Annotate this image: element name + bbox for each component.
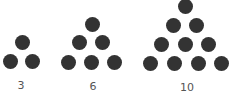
group-count-label: 6 — [90, 81, 97, 93]
dot — [84, 55, 99, 70]
dot — [154, 37, 169, 52]
dot — [85, 17, 100, 32]
triangular-numbers-diagram: 3 6 10 — [0, 0, 232, 95]
dot — [201, 37, 216, 52]
group-count-label: 10 — [180, 82, 194, 94]
dot — [95, 35, 110, 50]
group-count-label: 3 — [18, 80, 25, 92]
dot — [189, 18, 204, 33]
dot — [3, 54, 18, 69]
dot — [178, 37, 193, 52]
dot — [178, 0, 193, 14]
dot — [143, 56, 158, 71]
dot — [25, 54, 40, 69]
dot — [166, 18, 181, 33]
dot — [214, 56, 229, 71]
dot — [72, 35, 87, 50]
dot — [107, 55, 122, 70]
dot — [61, 55, 76, 70]
dot — [167, 56, 182, 71]
dot — [15, 35, 30, 50]
dot — [191, 56, 206, 71]
